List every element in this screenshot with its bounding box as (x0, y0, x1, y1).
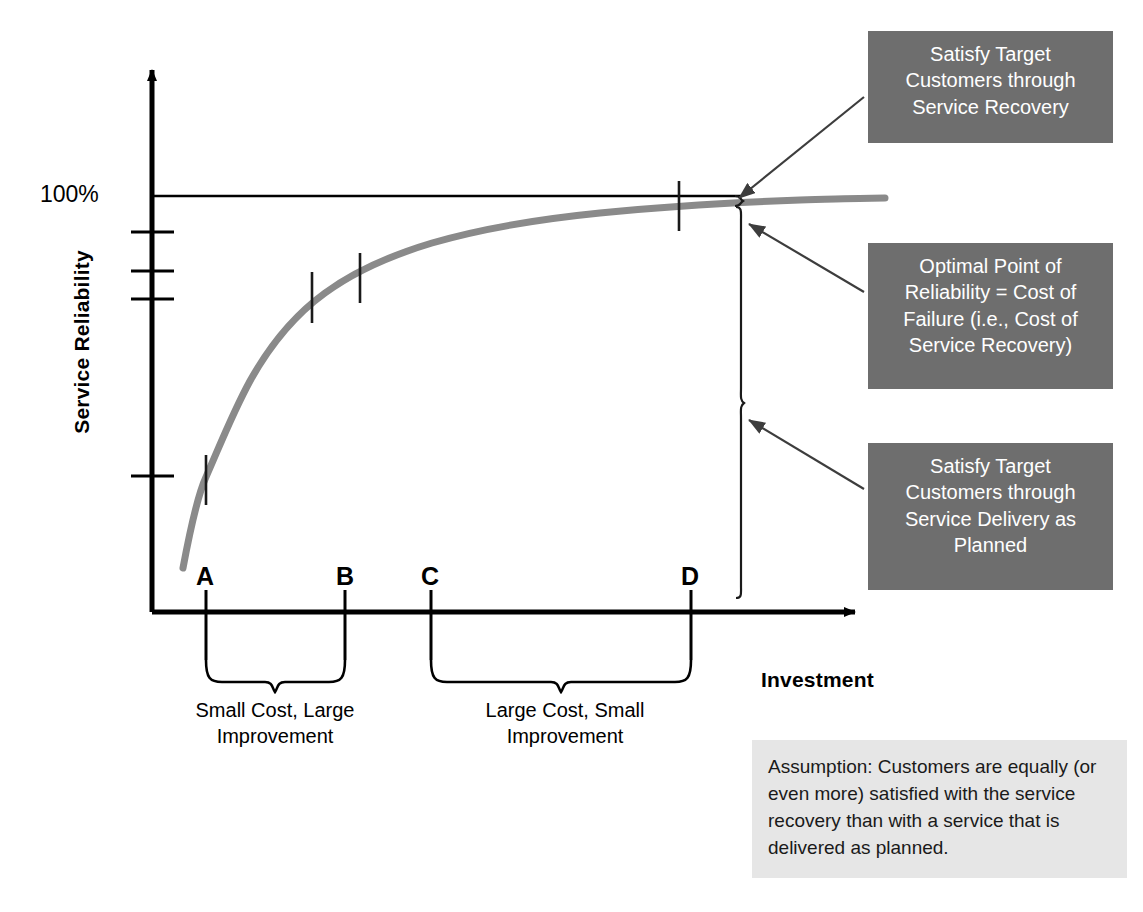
brace-delivery-span (736, 207, 744, 598)
axis-point-label-a: A (196, 562, 214, 591)
axis-point-label-c: C (421, 562, 439, 591)
reliability-curve (183, 198, 885, 568)
axis-point-label-b: B (336, 562, 354, 591)
y-axis-tick-label-100-percent: 100% (40, 181, 99, 208)
callout-service-recovery: Satisfy Target Customers through Service… (868, 31, 1113, 143)
callout-leader-lines (739, 97, 864, 489)
axis-point-label-d: D (681, 562, 699, 591)
callout-service-delivery: Satisfy Target Customers through Service… (868, 443, 1113, 590)
y-axis-title: Service Reliability (70, 212, 94, 472)
figure-canvas: Service Reliability 100% Investment A B … (0, 0, 1143, 912)
brace-small-cost (206, 660, 345, 692)
callout-optimal-point: Optimal Point of Reliability = Cost of F… (868, 243, 1113, 389)
x-axis-point-ticks (206, 590, 691, 660)
brace-large-cost (431, 660, 691, 692)
x-axis-title: Investment (761, 668, 874, 692)
brace-label-small-cost: Small Cost, Large Improvement (165, 697, 385, 750)
brace-label-large-cost: Large Cost, Small Improvement (425, 697, 705, 750)
assumption-note: Assumption: Customers are equally (or ev… (752, 740, 1127, 878)
